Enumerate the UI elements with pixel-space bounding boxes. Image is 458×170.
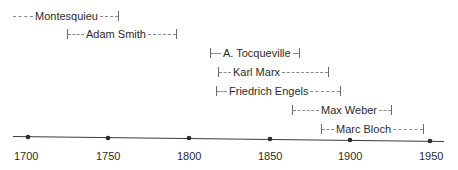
year-marker-dot xyxy=(428,139,433,144)
thinker-lifespan: Friedrich Engels xyxy=(216,84,341,98)
thinker-name: Max Weber xyxy=(319,104,379,116)
year-label: 1750 xyxy=(96,150,120,162)
lifespan-dash xyxy=(322,129,334,130)
end-tick xyxy=(340,86,341,96)
thinker-name: Karl Marx xyxy=(231,66,282,78)
end-tick xyxy=(423,124,424,134)
lifespan-dash xyxy=(293,110,319,111)
axis-line xyxy=(13,137,444,142)
lifespan-dash xyxy=(211,53,221,54)
year-label: 1950 xyxy=(419,150,443,162)
thinker-name: A. Tocqueville xyxy=(221,47,293,59)
year-marker-dot xyxy=(106,136,111,141)
lifespan-dash xyxy=(282,72,328,73)
lifespan-dash xyxy=(148,34,176,35)
year-marker-dot xyxy=(268,137,273,142)
lifespan-dash xyxy=(217,91,227,92)
lifespan-dash xyxy=(379,110,391,111)
thinker-lifespan: Adam Smith xyxy=(67,27,177,41)
year-label: 1850 xyxy=(258,150,282,162)
lifespan-dash xyxy=(13,16,33,17)
lifespan-dash xyxy=(393,129,423,130)
thinker-name: Marc Bloch xyxy=(334,123,393,135)
end-tick xyxy=(299,48,300,58)
year-marker-dot xyxy=(26,135,31,140)
lifespan-dash xyxy=(100,16,118,17)
year-label: 1700 xyxy=(14,150,38,162)
thinker-lifespan: Karl Marx xyxy=(218,65,329,79)
end-tick xyxy=(176,29,177,39)
lifespan-dash xyxy=(310,91,340,92)
thinker-name: Friedrich Engels xyxy=(227,85,310,97)
thinker-lifespan: A. Tocqueville xyxy=(210,46,300,60)
end-tick xyxy=(391,105,392,115)
thinker-lifespan: Marc Bloch xyxy=(321,122,424,136)
thinker-name: Adam Smith xyxy=(84,28,148,40)
thinker-lifespan: Max Weber xyxy=(292,103,392,117)
thinker-name: Montesquieu xyxy=(33,10,100,22)
year-label: 1900 xyxy=(338,150,362,162)
year-marker-dot xyxy=(187,136,192,141)
lifespan-dash xyxy=(68,34,84,35)
year-marker-dot xyxy=(348,138,353,143)
year-label: 1800 xyxy=(177,150,201,162)
lifespan-dash xyxy=(219,72,231,73)
thinker-lifespan: Montesquieu xyxy=(13,9,119,23)
end-tick xyxy=(118,11,119,21)
end-tick xyxy=(328,67,329,77)
